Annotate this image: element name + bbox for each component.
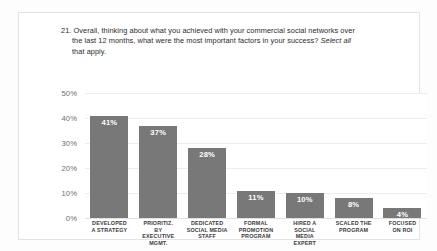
bar-column[interactable]: 41% xyxy=(85,93,134,218)
bar[interactable]: 28% xyxy=(188,148,226,218)
y-axis: 0%10%20%30%40%50% xyxy=(37,93,81,218)
x-axis-category-line: SCALED THE xyxy=(329,220,378,227)
x-axis-category-line: SOCIAL MEDIA xyxy=(183,227,232,234)
title-line-2-text: the last 12 months, what were the most i… xyxy=(72,36,321,45)
x-axis-category-line: MGMT. xyxy=(134,240,183,247)
bar-value-label: 37% xyxy=(139,128,177,137)
x-axis-category-line: PROMOTION xyxy=(232,227,281,234)
y-axis-tick-label: 0% xyxy=(66,214,77,223)
x-axis: DEVELOPEDA STRATEGYPRIORITIZ.BYEXECUTIVE… xyxy=(85,220,427,246)
bar[interactable]: 41% xyxy=(90,116,128,219)
title-line-2: the last 12 months, what were the most i… xyxy=(61,36,391,46)
title-line-2-italic: Select all xyxy=(321,36,352,45)
x-axis-category-line: DEVELOPED xyxy=(85,220,134,227)
x-axis-category-line: PRIORITIZ. xyxy=(134,220,183,227)
x-axis-category-label: PRIORITIZ.BYEXECUTIVEMGMT. xyxy=(134,220,183,246)
x-axis-category-label: FORMALPROMOTIONPROGRAM xyxy=(232,220,281,240)
x-axis-category-label: SCALED THEPROGRAM xyxy=(329,220,378,233)
bar[interactable]: 37% xyxy=(139,126,177,219)
x-axis-category-line: ON ROI xyxy=(378,227,427,234)
x-axis-category-label: HIRED ASOCIALMEDIAEXPERT xyxy=(280,220,329,246)
x-axis-category-line: STAFF xyxy=(183,233,232,240)
bar-value-label: 28% xyxy=(188,150,226,159)
bar[interactable]: 8% xyxy=(335,198,373,218)
x-axis-category-line: DEDICATED xyxy=(183,220,232,227)
x-axis-category-line: EXECUTIVE xyxy=(134,233,183,240)
axis-baseline xyxy=(85,218,427,219)
bar-column[interactable]: 4% xyxy=(378,93,427,218)
title-line-1: 21. Overall, thinking about what you ach… xyxy=(61,26,391,36)
x-axis-category-line: A STRATEGY xyxy=(85,227,134,234)
bar[interactable]: 10% xyxy=(286,193,324,218)
bar-value-label: 10% xyxy=(286,195,324,204)
y-axis-tick-label: 10% xyxy=(62,189,78,198)
x-axis-category-line: PROGRAM xyxy=(329,227,378,234)
x-axis-category-label: DEDICATEDSOCIAL MEDIASTAFF xyxy=(183,220,232,240)
y-axis-tick-label: 20% xyxy=(62,164,78,173)
bar[interactable]: 11% xyxy=(237,191,275,219)
bar-value-label: 11% xyxy=(237,193,275,202)
x-axis-category-line: PROGRAM xyxy=(232,233,281,240)
x-axis-category-label: FOCUSEDON ROI xyxy=(378,220,427,233)
y-axis-tick-label: 40% xyxy=(62,114,78,123)
bar-column[interactable]: 10% xyxy=(280,93,329,218)
bar-column[interactable]: 8% xyxy=(329,93,378,218)
y-axis-tick-label: 50% xyxy=(62,89,78,98)
bar-chart: 0%10%20%30%40%50% 41%37%28%11%10%8%4% DE… xyxy=(37,73,437,251)
bar-column[interactable]: 11% xyxy=(232,93,281,218)
x-axis-category-line: HIRED A xyxy=(280,220,329,227)
x-axis-category-line: MEDIA xyxy=(280,233,329,240)
bar-value-label: 8% xyxy=(335,200,373,209)
bar-series: 41%37%28%11%10%8%4% xyxy=(85,93,427,218)
bar-value-label: 41% xyxy=(90,118,128,127)
bar-column[interactable]: 37% xyxy=(134,93,183,218)
page-title: 21. Overall, thinking about what you ach… xyxy=(61,26,391,57)
x-axis-category-label: DEVELOPEDA STRATEGY xyxy=(85,220,134,233)
chart-card: 21. Overall, thinking about what you ach… xyxy=(18,12,420,240)
x-axis-category-line: EXPERT xyxy=(280,240,329,247)
title-line-3: that apply. xyxy=(61,47,391,57)
bar[interactable]: 4% xyxy=(383,208,421,218)
slide-canvas: 21. Overall, thinking about what you ach… xyxy=(0,0,437,251)
x-axis-category-line: FORMAL xyxy=(232,220,281,227)
x-axis-category-line: SOCIAL xyxy=(280,227,329,234)
bar-column[interactable]: 28% xyxy=(183,93,232,218)
bar-value-label: 4% xyxy=(383,210,421,219)
y-axis-tick-label: 30% xyxy=(62,139,78,148)
x-axis-category-line: FOCUSED xyxy=(378,220,427,227)
x-axis-category-line: BY xyxy=(134,227,183,234)
